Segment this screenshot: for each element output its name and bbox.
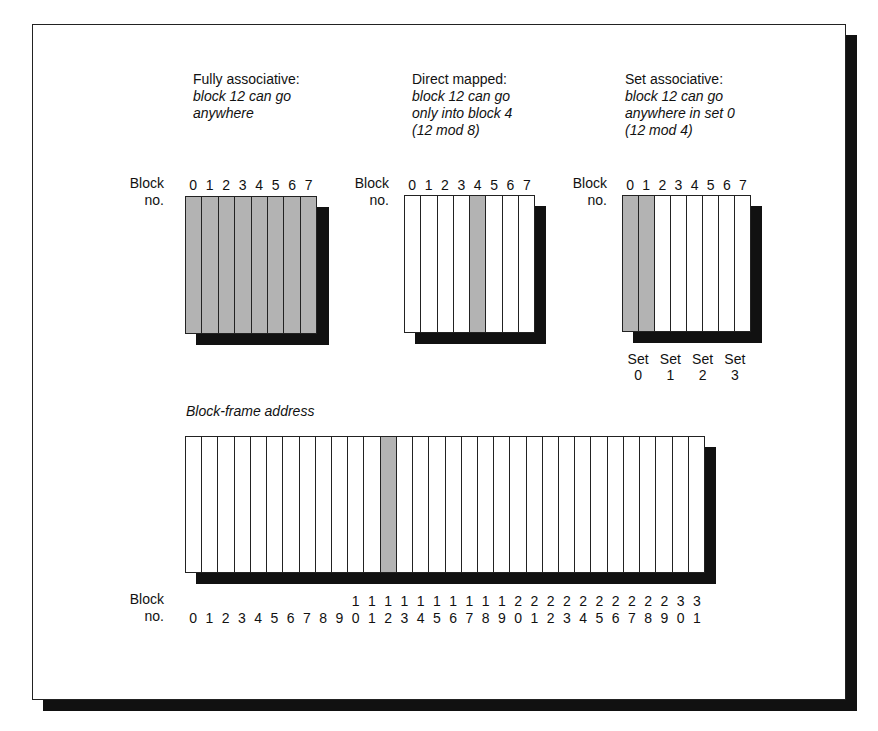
block-frame bbox=[478, 437, 494, 572]
block-frame bbox=[348, 437, 364, 572]
block-number: 7 bbox=[519, 177, 535, 193]
direct-block-no-label: Block no. bbox=[335, 175, 389, 209]
block-number: 2 bbox=[510, 593, 526, 609]
block-frame-shaded bbox=[235, 197, 251, 333]
block-number: 3 bbox=[689, 593, 705, 609]
block-number: 2 bbox=[608, 593, 624, 609]
direct-block-numbers: 01234567 bbox=[404, 177, 535, 193]
block-number: 9 bbox=[494, 610, 510, 626]
set-associative-cache bbox=[622, 195, 751, 332]
block-label-line2: no. bbox=[553, 192, 607, 209]
block-number: 6 bbox=[283, 610, 299, 626]
block-number: 5 bbox=[268, 177, 285, 193]
block-frame bbox=[673, 437, 689, 572]
block-frame bbox=[519, 196, 534, 332]
block-frame bbox=[510, 437, 526, 572]
set-associative-heading: Set associative: bbox=[625, 71, 735, 88]
block-frame bbox=[446, 437, 462, 572]
block-frame bbox=[300, 437, 316, 572]
block-number: 7 bbox=[299, 610, 315, 626]
set-label: Set0 bbox=[622, 351, 654, 383]
block-number: 0 bbox=[510, 610, 526, 626]
block-number bbox=[218, 593, 234, 609]
block-frame bbox=[316, 437, 332, 572]
block-number: 1 bbox=[396, 593, 412, 609]
block-number: 7 bbox=[624, 610, 640, 626]
block-frame bbox=[624, 437, 640, 572]
block-number: 7 bbox=[735, 177, 751, 193]
block-frame bbox=[235, 437, 251, 572]
block-frame-address-label: Block-frame address bbox=[186, 403, 314, 420]
block-number: 4 bbox=[575, 610, 591, 626]
block-frame bbox=[332, 437, 348, 572]
set-label-text: Set bbox=[719, 351, 751, 367]
set-block-no-label: Block no. bbox=[553, 175, 607, 209]
block-frame-shaded bbox=[284, 197, 300, 333]
block-number: 4 bbox=[251, 177, 268, 193]
block-frame bbox=[656, 437, 672, 572]
block-label-line2: no. bbox=[110, 192, 164, 209]
block-frame-shaded bbox=[623, 196, 639, 331]
block-number bbox=[315, 593, 331, 609]
block-number: 0 bbox=[348, 610, 364, 626]
block-label-line2: no. bbox=[110, 608, 164, 625]
block-frame bbox=[608, 437, 624, 572]
block-label-line1: Block bbox=[110, 591, 164, 608]
block-number: 1 bbox=[478, 593, 494, 609]
block-number: 0 bbox=[622, 177, 638, 193]
set-label-text: Set bbox=[687, 351, 719, 367]
set-associative-desc-1: block 12 can go bbox=[625, 88, 735, 105]
block-frame bbox=[640, 437, 656, 572]
block-number: 2 bbox=[575, 593, 591, 609]
block-number: 1 bbox=[413, 593, 429, 609]
block-number: 2 bbox=[654, 177, 670, 193]
block-number: 2 bbox=[380, 610, 396, 626]
block-frame bbox=[543, 437, 559, 572]
block-frame-shaded bbox=[301, 197, 316, 333]
block-number: 8 bbox=[315, 610, 331, 626]
block-number: 0 bbox=[185, 177, 202, 193]
memory-block-frames bbox=[185, 436, 705, 573]
block-number: 3 bbox=[396, 610, 412, 626]
set-number: 0 bbox=[622, 367, 654, 383]
block-number bbox=[250, 593, 266, 609]
block-number: 1 bbox=[380, 593, 396, 609]
block-number: 3 bbox=[453, 177, 469, 193]
set-label: Set2 bbox=[687, 351, 719, 383]
set-labels: Set0Set1Set2Set3 bbox=[622, 351, 751, 383]
block-number: 6 bbox=[445, 610, 461, 626]
block-frame bbox=[283, 437, 299, 572]
block-number: 2 bbox=[559, 593, 575, 609]
block-frame bbox=[503, 196, 519, 332]
set-associative-desc-3: (12 mod 4) bbox=[625, 122, 735, 139]
block-frame bbox=[462, 437, 478, 572]
set-number: 3 bbox=[719, 367, 751, 383]
block-number bbox=[185, 593, 201, 609]
fully-block-numbers: 01234567 bbox=[185, 177, 317, 193]
direct-mapped-desc-2: only into block 4 bbox=[412, 105, 512, 122]
block-number: 1 bbox=[461, 593, 477, 609]
fully-associative-desc-2: anywhere bbox=[193, 105, 300, 122]
block-number bbox=[299, 593, 315, 609]
block-number: 5 bbox=[591, 610, 607, 626]
block-number: 4 bbox=[470, 177, 486, 193]
block-frame bbox=[251, 437, 267, 572]
block-frame-shaded bbox=[202, 197, 218, 333]
block-frame bbox=[397, 437, 413, 572]
memory-block-numbers-tens: 1111111111222222222233 bbox=[185, 593, 705, 609]
block-number: 2 bbox=[591, 593, 607, 609]
set-block-numbers: 01234567 bbox=[622, 177, 751, 193]
block-frame-shaded bbox=[381, 437, 397, 572]
block-number: 2 bbox=[656, 593, 672, 609]
memory-title: Block-frame address bbox=[186, 403, 314, 420]
block-number: 0 bbox=[673, 610, 689, 626]
block-number: 2 bbox=[437, 177, 453, 193]
block-number: 1 bbox=[348, 593, 364, 609]
block-frame bbox=[735, 196, 750, 331]
block-number: 9 bbox=[656, 610, 672, 626]
block-label-line1: Block bbox=[335, 175, 389, 192]
block-label-line1: Block bbox=[553, 175, 607, 192]
block-label-line2: no. bbox=[335, 192, 389, 209]
block-frame bbox=[429, 437, 445, 572]
block-frame bbox=[267, 437, 283, 572]
